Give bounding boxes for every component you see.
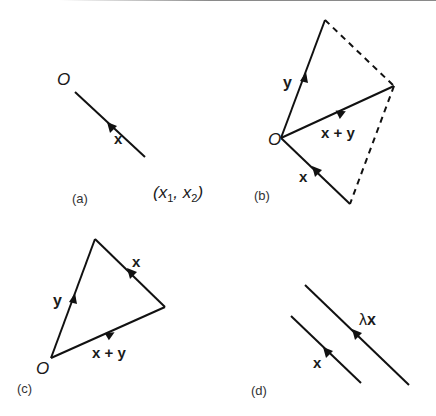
vector-x-plus-y-label: x + y (321, 124, 355, 141)
origin-label: O (268, 130, 281, 149)
vector-y-label: y (283, 74, 292, 91)
vector-x-label: x (299, 168, 308, 185)
panel-label-a: (a) (72, 191, 88, 206)
panel-d: λx x (d) (251, 285, 409, 398)
panel-label-c: (c) (17, 381, 32, 396)
panel-label-d: (d) (251, 383, 267, 398)
origin-label: O (36, 359, 49, 378)
panel-label-b: (b) (254, 188, 270, 203)
vector-x-label: x (114, 130, 123, 147)
vector-lambda-x-label: λx (359, 311, 376, 328)
arrowhead-icon (323, 347, 333, 358)
vector-y-label: y (53, 292, 62, 309)
dashed-edge (325, 20, 394, 86)
endpoint-label: (x1, x2) (153, 183, 203, 204)
vector-diagram: O x (x1, x2) (a) O y x + y x (b) O y x x… (0, 0, 436, 416)
panel-c: O y x x + y (c) (17, 239, 165, 396)
vector-x-plus-y-label: x + y (92, 344, 126, 361)
arrowhead-icon (69, 293, 77, 304)
vector-x-label: x (313, 354, 322, 371)
origin-label: O (57, 70, 70, 89)
panel-a: O x (x1, x2) (a) (57, 70, 203, 206)
panel-b: O y x + y x (b) (254, 20, 394, 204)
vector-x-label: x (132, 253, 141, 270)
